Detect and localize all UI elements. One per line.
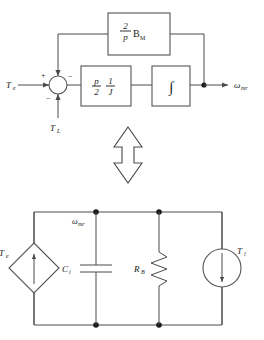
equivalent-circuit: ω mr T e C i [0, 209, 246, 328]
resistor-RB: R B [133, 209, 167, 328]
block-diagram: 2 p B M + − − T e T L [6, 13, 248, 134]
gain-term1-denominator: 2 [94, 87, 99, 97]
resistor-RB-label-subscript: B [141, 269, 145, 275]
disturbance-label-TL: T [50, 123, 56, 133]
circuit-node-label-omega-subscript: mr [78, 221, 85, 227]
output-label-omega-subscript: mr [241, 85, 248, 91]
capacitor-Ci-label-subscript: i [69, 269, 71, 275]
feedback-gain-block: 2 p B M [108, 13, 170, 55]
capacitor-Ci-label: C [62, 264, 69, 274]
feedback-gain-denominator: p [122, 32, 128, 42]
sign-minus-feedback: − [68, 72, 73, 81]
source-Te-label: T [0, 248, 5, 258]
gain-term2-numerator: 1 [108, 76, 113, 86]
figure-container: 2 p B M + − − T e T L [0, 0, 264, 340]
disturbance-label-TL-subscript: L [56, 128, 61, 134]
gain-term1-numerator: p [93, 76, 99, 86]
feedback-gain-numerator: 2 [123, 21, 128, 31]
capacitor-Ci: C i [62, 209, 112, 328]
resistor-RB-label: R [133, 264, 140, 274]
sign-plus-input: + [41, 71, 46, 80]
source-Tl-label-subscript: l [244, 251, 246, 257]
source-Tl-label: T [237, 246, 243, 256]
summing-junction: + − − [41, 71, 73, 103]
feedback-gain-factor-subscript: M [140, 35, 146, 41]
sign-minus-load: − [46, 94, 51, 103]
current-source-Tl: T l [203, 212, 246, 325]
equivalence-double-arrow-icon [114, 127, 142, 183]
gain-block: p 2 1 J [81, 66, 131, 106]
integrator-block: ∫ [152, 66, 190, 106]
output-label-omega: ω [234, 80, 240, 90]
input-label-Te: T [6, 80, 12, 90]
dependent-source-Te: T e [0, 212, 59, 325]
feedback-gain-factor: B [133, 28, 140, 39]
input-label-Te-subscript: e [13, 85, 16, 91]
source-Te-label-subscript: e [6, 253, 9, 259]
